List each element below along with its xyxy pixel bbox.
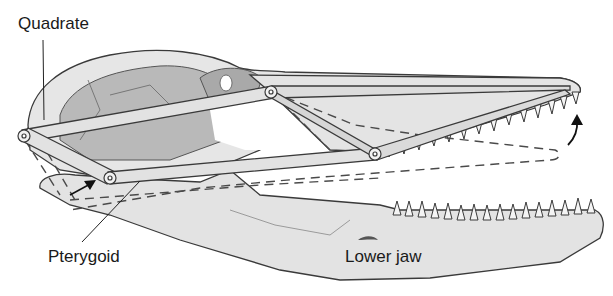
- label-quadrate: Quadrate: [18, 14, 89, 34]
- lower-jaw: [40, 170, 603, 280]
- arrow-upper-jaw-icon: [571, 114, 583, 125]
- label-lower-jaw: Lower jaw: [345, 247, 422, 267]
- label-pterygoid: Pterygoid: [48, 247, 120, 267]
- skull-linkage-diagram: Quadrate Pterygoid Lower jaw: [0, 0, 613, 296]
